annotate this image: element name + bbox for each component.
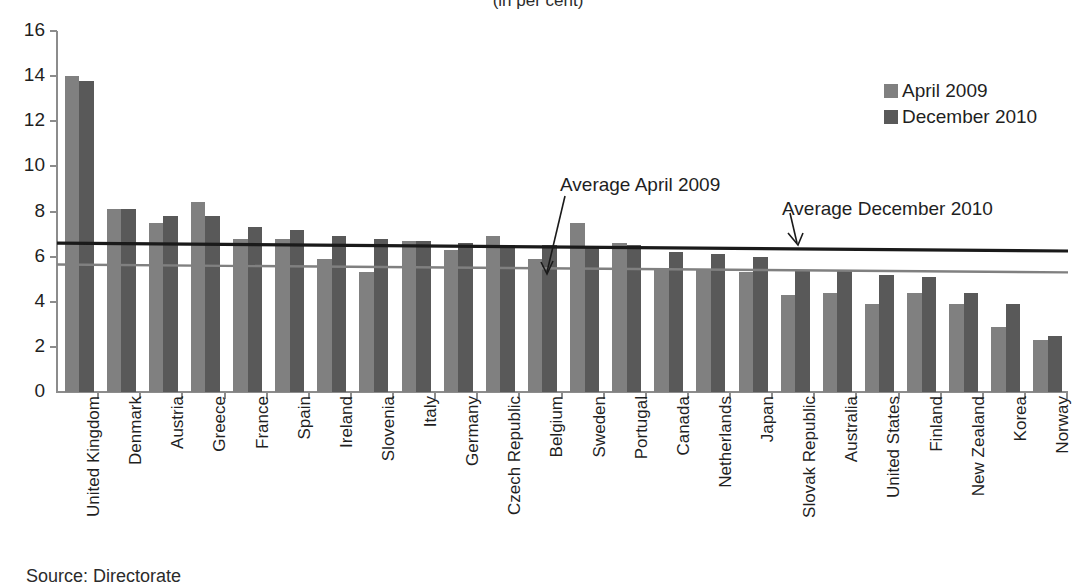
y-tick-mark — [50, 165, 57, 167]
x-label-canada: Canada — [675, 396, 692, 456]
x-label-austria: Austria — [169, 396, 186, 449]
reference-line-average-december-2010 — [57, 243, 1068, 251]
legend-item-april: April 2009 — [884, 78, 1037, 104]
y-tick-mark — [50, 301, 57, 303]
y-tick-mark — [50, 211, 57, 213]
reference-line-average-april-2009 — [57, 265, 1068, 273]
legend-item-december: December 2010 — [884, 104, 1037, 130]
x-label-denmark: Denmark — [127, 396, 144, 465]
x-label-portugal: Portugal — [633, 396, 650, 459]
y-tick-label: 8 — [34, 201, 45, 221]
x-label-belgium: Belgium — [548, 396, 565, 457]
x-label-united-states: United States — [885, 396, 902, 498]
y-tick-label: 16 — [24, 20, 45, 40]
source-note: Source: Directorate — [26, 566, 181, 587]
x-label-finland: Finland — [928, 396, 945, 452]
x-label-germany: Germany — [464, 396, 481, 466]
x-label-ireland: Ireland — [338, 396, 355, 448]
annotation-average-april-2009: Average April 2009 — [560, 174, 720, 196]
y-tick-label: 12 — [24, 110, 45, 130]
x-label-sweden: Sweden — [591, 396, 608, 457]
x-label-japan: Japan — [759, 396, 776, 442]
bar-chart: (in per cent) 0246810121416 United Kingd… — [0, 0, 1076, 587]
y-tick-mark — [50, 256, 57, 258]
y-tick-label: 2 — [34, 336, 45, 356]
x-label-korea: Korea — [1012, 396, 1029, 441]
chart-legend: April 2009 December 2010 — [884, 78, 1037, 130]
y-tick-mark — [50, 120, 57, 122]
y-tick-label: 6 — [34, 246, 45, 266]
x-label-spain: Spain — [296, 396, 313, 439]
x-label-united-kingdom: United Kingdom — [85, 396, 102, 517]
x-label-new-zealand: New Zealand — [970, 396, 987, 496]
y-tick-label: 14 — [24, 65, 45, 85]
x-label-slovak-republic: Slovak Republic — [801, 396, 818, 518]
x-label-greece: Greece — [211, 396, 228, 452]
legend-label-december: December 2010 — [902, 106, 1037, 128]
y-tick-label: 0 — [34, 381, 45, 401]
legend-swatch-april-icon — [884, 84, 898, 98]
y-tick-mark — [50, 30, 57, 32]
y-tick-mark — [50, 346, 57, 348]
x-label-norway: Norway — [1054, 396, 1071, 454]
legend-swatch-december-icon — [884, 110, 898, 124]
x-label-czech-republic: Czech Republic — [506, 396, 523, 515]
x-label-france: France — [254, 396, 271, 449]
x-label-slovenia: Slovenia — [380, 396, 397, 461]
chart-title: (in per cent) — [0, 0, 1076, 11]
x-label-italy: Italy — [422, 396, 439, 427]
x-label-australia: Australia — [843, 396, 860, 462]
x-label-netherlands: Netherlands — [717, 396, 734, 488]
legend-label-april: April 2009 — [902, 80, 988, 102]
y-tick-label: 10 — [24, 155, 45, 175]
x-axis-category-labels: United KingdomDenmarkAustriaGreeceFrance… — [57, 396, 1068, 546]
y-tick-mark — [50, 75, 57, 77]
y-tick-label: 4 — [34, 291, 45, 311]
annotation-average-december-2010: Average December 2010 — [782, 198, 993, 220]
